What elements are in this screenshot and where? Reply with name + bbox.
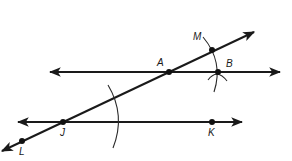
diagram-canvas: ABMJKL [0, 0, 292, 161]
point-m [209, 47, 215, 53]
point-j [60, 119, 66, 125]
point-b [215, 69, 221, 75]
label-l: L [19, 146, 25, 157]
point-a [166, 69, 172, 75]
label-a: A [156, 57, 164, 68]
arc-at-A [203, 37, 217, 92]
arc-at-J [108, 85, 118, 148]
label-b: B [226, 58, 233, 69]
label-k: K [208, 127, 216, 138]
label-m: M [193, 31, 202, 42]
point-l [19, 138, 25, 144]
label-j: J [59, 127, 66, 138]
transversal [2, 32, 254, 151]
point-k [209, 119, 215, 125]
labels-layer: ABMJKL [19, 31, 233, 157]
geometry-diagram: ABMJKL [0, 0, 292, 161]
lines-layer [2, 32, 280, 151]
